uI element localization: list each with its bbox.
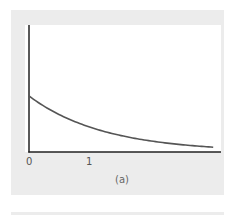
figure-caption: (a) (115, 174, 129, 185)
x-tick-1: 1 (86, 156, 92, 167)
decay-curve (29, 96, 213, 147)
x-tick-0: 0 (26, 156, 32, 167)
